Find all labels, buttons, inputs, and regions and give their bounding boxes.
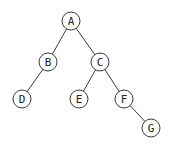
node-g: G: [142, 119, 160, 137]
edges: [22, 21, 151, 128]
node-label: F: [121, 93, 128, 106]
node-label: E: [76, 93, 83, 106]
nodes: A B C D E F G: [13, 12, 160, 137]
node-label: G: [148, 122, 155, 135]
node-e: E: [70, 90, 88, 108]
node-b: B: [39, 53, 57, 71]
node-label: A: [68, 15, 75, 28]
node-c: C: [91, 53, 109, 71]
node-label: D: [19, 93, 26, 106]
tree-diagram: A B C D E F G: [0, 0, 172, 147]
node-label: C: [97, 56, 104, 69]
node-f: F: [115, 90, 133, 108]
node-d: D: [13, 90, 31, 108]
node-a: A: [62, 12, 80, 30]
node-label: B: [45, 56, 52, 69]
